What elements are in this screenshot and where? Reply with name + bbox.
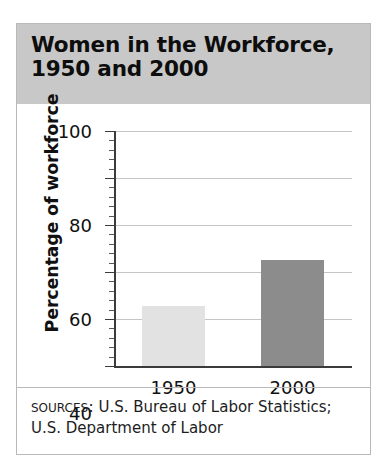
panel-header: Women in the Workforce, 1950 and 2000: [17, 24, 370, 104]
sources-note: Sources: U.S. Bureau of Labor Statistics…: [31, 396, 360, 439]
bar-2000: [261, 260, 324, 366]
x-axis-line: [114, 366, 352, 368]
plot-area: 020406080100 19502000: [114, 131, 352, 368]
y-tick-major: 80: [105, 178, 114, 180]
chart-body: Percentage of workforce 020406080100 195…: [17, 104, 370, 387]
gridline: [114, 131, 352, 132]
gridline: [114, 225, 352, 226]
y-tick-major: 0: [105, 366, 114, 368]
y-tick-label: 80: [69, 214, 92, 235]
y-tick-label: 100: [58, 120, 92, 141]
y-tick-major: 20: [105, 319, 114, 321]
sources-label: Sources:: [31, 397, 94, 416]
y-tick-major: 40: [105, 272, 114, 274]
y-tick-label: 60: [69, 308, 92, 329]
y-tick-major: 60: [105, 225, 114, 227]
gridline: [114, 178, 352, 179]
y-tick-major: 100: [105, 131, 114, 133]
page-title: Women in the Workforce, 1950 and 2000: [31, 33, 362, 82]
bar-1950: [142, 306, 205, 366]
figure-panel: Women in the Workforce, 1950 and 2000 Pe…: [16, 23, 371, 455]
sources-divider: [17, 387, 370, 388]
y-axis-line: [114, 131, 116, 368]
